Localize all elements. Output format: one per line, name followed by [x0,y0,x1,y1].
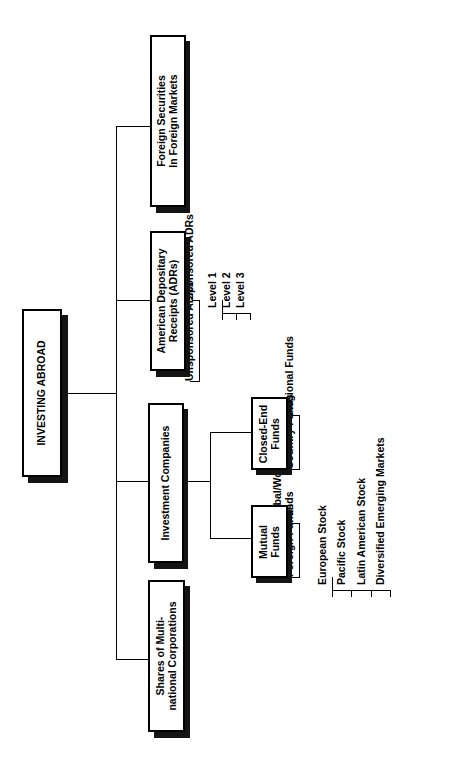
label-level-1: Level 1 [207,272,219,308]
connector-mutual-funds-bus [299,523,300,578]
node-closed-end-funds-label: Closed-End Funds [258,399,282,469]
connector-international-stem [332,577,333,591]
node-multinational-corporations-label: Shares of Multi- national Corporations [155,582,179,730]
connector-level-1 [222,313,223,320]
node-foreign-securities-label: Foreign Securities In Foreign Markets [156,37,180,205]
connector-investment-companies-stem [188,481,210,482]
connector-to-closed-end-funds [210,432,251,433]
connector-to-country-funds [292,469,300,470]
connector-arm-investment-companies [116,481,148,482]
connector-european-stock [332,590,333,597]
connector-closed-end-bus [299,415,300,470]
node-mutual-funds[interactable]: Mutual Funds [251,505,288,578]
connector-arm-adrs [116,300,150,301]
root-node-investing-abroad[interactable]: INVESTING ABROAD [22,309,62,477]
connector-adrs-bus [199,300,200,381]
node-investment-companies[interactable]: Investment Companies [148,403,184,563]
connector-to-regional-funds [292,415,300,416]
connector-investment-companies-bus [210,432,211,538]
connector-to-mutual-funds [210,538,251,539]
connector-to-international-foreign-funds [292,577,300,578]
connector-level-2 [236,313,237,320]
label-pacific-stock: Pacific Stock [336,520,348,585]
connector-arm-foreign-securities [116,126,150,127]
node-investment-companies-label: Investment Companies [160,405,172,561]
connector-adrs-to-unsponsored [192,381,200,382]
connector-diversified-emerging-markets [390,590,391,597]
connector-main-bus [116,126,117,659]
connector-root-stem [62,393,116,394]
connector-pacific-stock [351,590,352,597]
connector-level-3 [250,313,251,320]
node-adrs[interactable]: American Depositary Receipts (ADRs) [150,231,186,371]
connector-stock-categories-bus [332,590,391,591]
root-node-label: INVESTING ABROAD [36,313,48,473]
connector-adrs-to-sponsored [192,300,200,301]
node-adrs-label: American Depositary Receipts (ADRs) [156,233,180,369]
connector-to-global-world-funds [292,523,300,524]
label-european-stock: European Stock [317,505,329,585]
diagram-canvas: INVESTING ABROAD Foreign Securities In F… [0,0,453,759]
label-diversified-emerging-markets: Diversified Emerging Markets [375,437,387,585]
node-closed-end-funds[interactable]: Closed-End Funds [251,397,288,470]
node-foreign-securities[interactable]: Foreign Securities In Foreign Markets [150,35,186,207]
label-level-3: Level 3 [235,272,247,308]
connector-latin-american-stock [371,590,372,597]
connector-arm-multinational [116,659,148,660]
node-multinational-corporations[interactable]: Shares of Multi- national Corporations [148,580,185,732]
connector-sponsored-stem [222,300,223,314]
node-mutual-funds-label: Mutual Funds [258,507,282,577]
label-latin-american-stock: Latin American Stock [356,478,368,585]
